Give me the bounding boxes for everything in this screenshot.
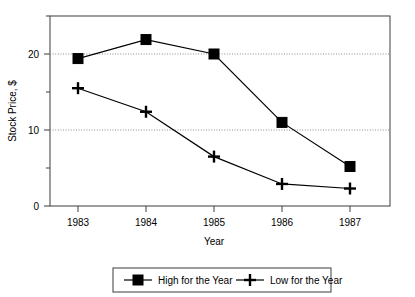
legend-entry-high[interactable]: High for the Year	[124, 275, 233, 286]
ytick-label-10: 10	[28, 125, 40, 136]
chart-legend: High for the Year Low for the Year	[113, 268, 343, 292]
xtick-label-1986: 1986	[271, 217, 294, 228]
ytick-label-20: 20	[28, 49, 40, 60]
data-point-marker	[209, 49, 219, 59]
legend-label-low: Low for the Year	[270, 275, 343, 286]
x-axis-ticks	[78, 206, 350, 212]
chart-canvas: 0 10 20 Stock Price, $ 1983 1984 1985 19…	[0, 0, 415, 297]
filled-square-icon	[133, 275, 143, 285]
y-axis-title: Stock Price, $	[7, 80, 18, 142]
plot-frame	[50, 16, 390, 206]
data-point-marker	[345, 161, 355, 171]
series-low	[72, 82, 356, 194]
xtick-label-1983: 1983	[67, 217, 90, 228]
data-point-marker	[277, 117, 287, 127]
x-axis-title: Year	[204, 236, 225, 247]
series-line	[78, 88, 350, 188]
xtick-label-1984: 1984	[135, 217, 158, 228]
gridlines	[50, 54, 390, 130]
data-series-layer	[72, 35, 356, 195]
stock-price-line-chart: 0 10 20 Stock Price, $ 1983 1984 1985 19…	[0, 0, 415, 297]
data-point-marker	[73, 54, 83, 64]
legend-entry-low[interactable]: Low for the Year	[236, 274, 343, 286]
xtick-label-1985: 1985	[203, 217, 226, 228]
xtick-label-1987: 1987	[339, 217, 362, 228]
data-point-marker	[141, 35, 151, 45]
ytick-label-0: 0	[33, 201, 39, 212]
legend-label-high: High for the Year	[158, 275, 233, 286]
y-axis-ticks	[44, 16, 50, 206]
